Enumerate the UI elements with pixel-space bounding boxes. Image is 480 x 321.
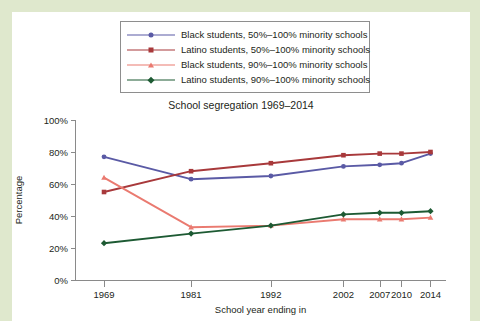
plot-area [75,120,445,280]
data-point-marker [101,175,107,180]
x-axis-line: 1969198119922002200720102014 [75,280,446,281]
x-axis-tick-label: 2014 [420,289,441,300]
series-line [101,208,434,246]
legend-item[interactable]: Black students, 50%–100% minority school… [127,27,362,42]
data-point-marker [377,151,382,156]
chart-legend: Black students, 50%–100% minority school… [120,21,370,93]
legend-item-label: Black students, 50%–100% minority school… [181,29,367,40]
legend-item-label: Latino students, 90%–100% minority schoo… [181,74,370,85]
series-line [102,151,433,181]
y-axis-tick-label: 40% [49,211,68,222]
data-point-marker [268,174,273,179]
x-axis-tick-label: 2007 [369,289,390,300]
legend-swatch [127,74,175,85]
data-point-marker [189,169,194,174]
legend-item-label: Latino students, 50%–100% minority schoo… [181,44,370,55]
x-axis-tick [401,281,402,287]
legend-marker-square-icon [149,47,154,52]
data-point-marker [189,177,194,182]
series-line [102,150,433,195]
legend-swatch [127,29,175,40]
series-polyline [104,154,430,180]
x-axis-tick [380,281,381,287]
legend-marker-diamond-icon [148,76,154,82]
data-point-marker [398,210,404,216]
x-axis-tick [191,281,192,287]
x-axis-tick-label: 1969 [93,289,114,300]
data-point-marker [188,231,194,237]
series-layer [75,120,445,280]
y-axis-tick-label: 100% [44,115,68,126]
legend-marker-triangle-icon [148,62,154,67]
chart-title: School segregation 1969–2014 [12,99,470,111]
data-point-marker [102,154,107,159]
data-point-marker [340,211,346,217]
legend-item[interactable]: Latino students, 90%–100% minority schoo… [127,72,362,87]
x-axis-tick [430,281,431,287]
series-line [101,175,433,230]
y-axis-tick-label: 20% [49,243,68,254]
data-point-marker [341,164,346,169]
x-axis-tick-label: 2010 [391,289,412,300]
y-axis-tick-label: 60% [49,179,68,190]
y-axis-title: Percentage [13,176,24,225]
legend-swatch [127,59,175,70]
series-polyline [104,211,430,243]
y-axis-tick-label: 80% [49,147,68,158]
data-point-marker [269,161,274,166]
data-point-marker [377,210,383,216]
data-point-marker [399,151,404,156]
legend-item-label: Black students, 90%–100% minority school… [181,59,367,70]
data-point-marker [101,240,107,246]
legend-swatch [127,44,175,55]
x-axis-tick-label: 1981 [181,289,202,300]
x-axis-title: School year ending in [75,304,446,315]
data-point-marker [341,153,346,158]
legend-item[interactable]: Latino students, 50%–100% minority schoo… [127,42,362,57]
x-axis-tick [104,281,105,287]
data-point-marker [102,190,107,195]
x-axis-tick [343,281,344,287]
legend-marker-dot-icon [149,32,154,37]
x-axis-tick [271,281,272,287]
data-point-marker [427,208,433,214]
data-point-marker [399,161,404,166]
x-axis-tick-label: 1992 [260,289,281,300]
chart-card: Black students, 50%–100% minority school… [12,12,470,321]
y-axis-tick-label: 0% [54,275,68,286]
x-axis-tick-label: 2002 [333,289,354,300]
series-polyline [104,152,430,192]
figure-container: Black students, 50%–100% minority school… [0,0,480,321]
legend-item[interactable]: Black students, 90%–100% minority school… [127,57,362,72]
data-point-marker [377,162,382,167]
data-point-marker [428,150,433,155]
